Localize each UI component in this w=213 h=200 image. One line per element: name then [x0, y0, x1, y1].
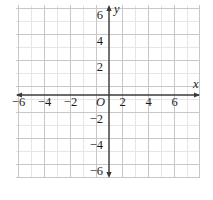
origin-label: O: [96, 96, 105, 109]
y-axis-name-label: y: [114, 3, 120, 16]
x-tick-label--6: −6: [12, 96, 25, 109]
minor-gridlines: [16, 5, 200, 178]
y-tick-label--6: −6: [90, 164, 103, 177]
x-tick-label-6: 6: [171, 96, 177, 109]
coordinate-grid: [16, 5, 200, 178]
coordinate-plane-figure: −6 −4 −2 2 4 6 6 4 2 −2 −4 −6 O x y: [0, 0, 213, 200]
x-tick-label-4: 4: [145, 96, 151, 109]
y-tick-label--2: −2: [90, 112, 103, 125]
major-gridlines: [16, 5, 200, 178]
x-tick-label-2: 2: [119, 96, 125, 109]
y-tick-label-2: 2: [97, 60, 103, 73]
y-tick-label-4: 4: [97, 34, 103, 47]
y-tick-label--4: −4: [90, 138, 103, 151]
x-tick-label--4: −4: [38, 96, 51, 109]
x-axis-name-label: x: [193, 78, 199, 91]
y-tick-label-6: 6: [97, 8, 103, 21]
x-tick-label--2: −2: [64, 96, 77, 109]
plot-area: [16, 5, 200, 178]
